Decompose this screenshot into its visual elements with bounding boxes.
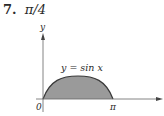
x-axis-arrow-icon <box>156 97 163 101</box>
shaded-region <box>43 76 113 99</box>
y-axis-label: y <box>39 22 46 32</box>
origin-label: 0 <box>36 102 42 112</box>
sine-area-figure: y y = sin x 0 π <box>0 0 164 116</box>
y-axis-arrow-icon <box>41 33 45 40</box>
curve-label: y = sin x <box>60 62 103 73</box>
pi-tick-label: π <box>109 102 117 112</box>
